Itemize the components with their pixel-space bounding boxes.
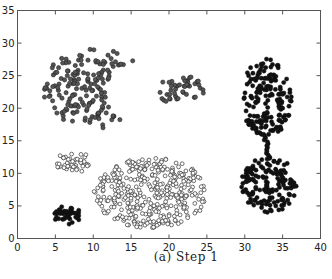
data-point [79,158,83,162]
data-point [258,68,262,72]
data-point [259,85,263,89]
data-point [166,222,170,226]
data-point [77,77,81,81]
data-point [166,167,170,171]
data-point [55,70,59,74]
data-point [97,117,101,121]
data-point [70,94,74,98]
data-point [84,94,88,98]
data-point [116,217,120,221]
data-point [117,189,121,193]
data-point [249,168,253,172]
data-point [165,189,169,193]
data-point [161,168,165,172]
data-point [277,101,281,105]
data-point [61,61,65,65]
data-point [57,162,61,166]
data-point [117,194,121,198]
data-point [255,114,259,118]
data-point [193,95,197,99]
data-point [66,103,70,107]
data-point [283,113,287,117]
data-point [67,216,71,220]
data-point [125,223,129,227]
data-point [269,58,273,62]
data-point [63,78,67,82]
data-point [262,132,266,136]
data-point [161,80,165,84]
data-point [252,178,256,182]
data-point [142,195,146,199]
data-point [259,76,263,80]
data-point [280,203,284,207]
data-point [141,204,145,208]
data-point [102,195,106,199]
data-point [62,166,66,170]
data-point [128,205,132,209]
data-point [248,114,252,118]
data-point [186,216,190,220]
data-point [278,87,282,91]
data-point [55,111,59,115]
data-point [283,118,287,122]
data-point [124,216,128,220]
scatter-figure: 0510152025303540 05101520253035 [0,0,332,279]
data-point [42,95,46,99]
data-point [270,120,274,124]
data-point [119,62,123,66]
data-point [65,74,69,78]
data-point [110,62,114,66]
data-point [255,90,259,94]
data-point [281,197,285,201]
data-point [150,167,154,171]
y-axis-tick-labels: 05101520253035 [2,5,15,244]
data-point [264,169,268,173]
data-point [142,219,146,223]
data-point [159,183,163,187]
data-point [184,210,188,214]
data-point [259,122,263,126]
data-point [80,62,84,66]
data-point [273,87,277,91]
data-point [73,63,77,67]
data-point [240,185,244,189]
data-point [242,97,246,101]
data-point [277,193,281,197]
data-point [93,115,97,119]
data-point [53,106,57,110]
data-point [98,183,102,187]
data-point [201,91,205,95]
data-point [156,196,160,200]
data-point [247,104,251,108]
data-point [278,113,282,117]
data-point [111,114,115,118]
data-point [264,66,268,70]
data-point [134,214,138,218]
data-point [292,194,296,198]
data-point [282,168,286,172]
data-point [153,181,157,185]
data-point [251,71,255,75]
data-point [262,81,266,85]
data-point [106,68,110,72]
data-point [192,176,196,180]
data-point [120,172,124,176]
data-point [278,92,282,96]
data-point [112,196,116,200]
data-point [75,82,79,86]
data-point [65,209,69,213]
data-point [261,176,265,180]
data-point [264,190,268,194]
data-point [156,186,160,190]
data-point [253,159,257,163]
data-point [168,92,172,96]
data-point [199,185,203,189]
data-point [135,200,139,204]
data-point [196,175,200,179]
data-point [249,200,253,204]
data-point [267,132,271,136]
data-point [152,220,156,224]
data-point [193,211,197,215]
data-point [174,182,178,186]
data-point [158,206,162,210]
